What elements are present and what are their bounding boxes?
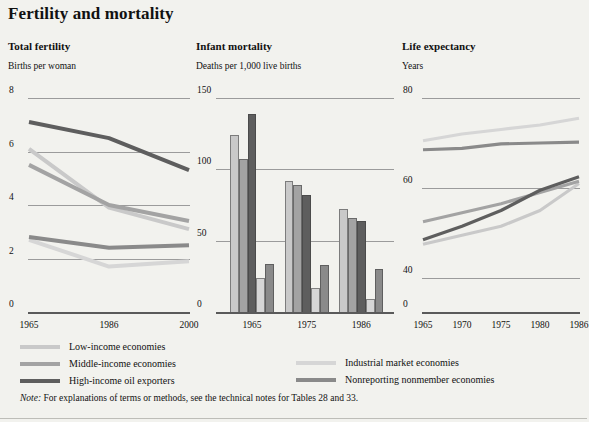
bar — [239, 159, 248, 312]
panel-axis-unit: Deaths per 1,000 live births — [196, 53, 396, 72]
y-axis-tick-label: 6 — [9, 140, 14, 150]
legend-column-left: Low-income economiesMiddle-income econom… — [20, 338, 176, 389]
legend-swatch — [296, 378, 336, 382]
y-axis-tick-label: 0 — [403, 300, 408, 310]
legend-label: Industrial market economies — [345, 357, 459, 368]
legend-item: Nonreporting nonmember economies — [296, 371, 494, 388]
bar-groups — [216, 88, 394, 312]
x-axis-tick-label: 1975 — [297, 321, 316, 331]
panel-total-fertility: Total fertility Births per woman 0246819… — [8, 40, 190, 330]
panel-title: Total fertility — [8, 40, 190, 53]
legend-label: Low-income economies — [69, 341, 165, 352]
legend-swatch — [296, 361, 336, 365]
y-axis-tick-label: 80 — [403, 86, 413, 96]
y-axis-tick-label: 60 — [403, 176, 413, 186]
legend-label: High-income oil exporters — [69, 375, 175, 386]
plot-canvas: 02468 — [28, 88, 190, 312]
series-line — [29, 122, 189, 170]
legend-item: High-income oil exporters — [20, 372, 176, 389]
bar — [375, 269, 384, 312]
plot-canvas: 050100150 — [216, 88, 394, 312]
note-text: For explanations of terms or methods, se… — [43, 393, 358, 403]
y-axis-tick-label: 4 — [9, 193, 14, 203]
legend-label: Middle-income economies — [69, 358, 176, 369]
bottom-rule — [0, 418, 587, 419]
y-axis-tick-label: 2 — [9, 247, 14, 257]
x-axis-line — [422, 312, 580, 314]
legend-item: Middle-income economies — [20, 355, 176, 372]
x-axis-line — [216, 312, 394, 314]
y-axis-tick-label: 100 — [197, 157, 211, 167]
y-axis-tick-label: 0 — [197, 300, 202, 310]
x-axis-tick-label: 1975 — [492, 321, 511, 331]
legend-swatch — [20, 379, 60, 383]
bar — [339, 209, 348, 312]
y-axis-tick-label: 40 — [403, 266, 413, 276]
panel-title: Infant mortality — [196, 40, 396, 53]
legend-label: Nonreporting nonmember economies — [345, 374, 494, 385]
plot-area-total-fertility: 02468196519862000 — [28, 88, 190, 334]
bar — [366, 299, 375, 312]
plot-area-life-expectancy: 040608019651970197519801986 — [422, 88, 580, 334]
page-title: Fertility and mortality — [8, 4, 174, 24]
plot-canvas: 0406080 — [422, 88, 580, 312]
bar — [320, 265, 329, 312]
y-axis-tick-label: 8 — [9, 86, 14, 96]
bar — [302, 195, 311, 312]
bar — [348, 218, 357, 312]
x-axis-tick-label: 1986 — [352, 321, 371, 331]
legend-item: Low-income economies — [20, 338, 176, 355]
panel-life-expectancy: Life expectancy Years 040608019651970197… — [402, 40, 582, 330]
series-line — [423, 118, 579, 141]
bar — [311, 288, 320, 312]
y-axis-tick-label: 150 — [197, 86, 211, 96]
figure-note: Note: For explanations of terms or metho… — [20, 393, 358, 404]
x-axis-tick-label: 1965 — [414, 321, 433, 331]
bar — [256, 278, 265, 312]
series-lines — [28, 88, 190, 312]
x-axis-tick-label: 1965 — [243, 321, 262, 331]
x-axis-tick-label: 1986 — [570, 321, 589, 331]
x-axis-tick-label: 1965 — [20, 321, 39, 331]
panel-infant-mortality: Infant mortality Deaths per 1,000 live b… — [196, 40, 396, 330]
plot-area-infant-mortality: 050100150196519751986 — [216, 88, 394, 334]
note-label: Note: — [20, 393, 41, 403]
x-axis-line — [28, 312, 190, 314]
series-line — [29, 240, 189, 267]
panel-axis-unit: Births per woman — [8, 53, 190, 72]
series-lines — [422, 88, 580, 312]
series-line — [29, 165, 189, 221]
series-line — [423, 142, 579, 150]
bar — [285, 181, 294, 312]
panel-axis-unit: Years — [402, 53, 582, 72]
y-axis-tick-label: 0 — [9, 300, 14, 310]
bar — [293, 185, 302, 312]
bar — [357, 221, 366, 312]
legend-swatch — [20, 362, 60, 366]
legend-swatch — [20, 345, 60, 349]
x-axis-tick-label: 1986 — [100, 321, 119, 331]
panel-title: Life expectancy — [402, 40, 582, 53]
y-axis-tick-label: 50 — [197, 229, 207, 239]
x-axis-tick-label: 1980 — [531, 321, 550, 331]
bar — [265, 264, 274, 313]
legend-column-right: Industrial market economiesNonreporting … — [296, 338, 494, 388]
bar — [230, 135, 239, 312]
chart-legend: Low-income economiesMiddle-income econom… — [8, 338, 583, 382]
x-axis-tick-label: 1970 — [453, 321, 472, 331]
legend-item: Industrial market economies — [296, 354, 494, 371]
series-line — [423, 177, 579, 240]
series-line — [423, 184, 579, 245]
bar — [248, 114, 257, 312]
